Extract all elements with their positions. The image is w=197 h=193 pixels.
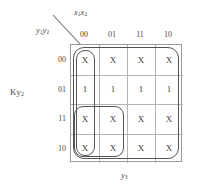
kmap-cell-r2-c0[interactable]: X bbox=[71, 104, 99, 134]
kmap-cell-r0-c2[interactable]: X bbox=[127, 45, 155, 75]
kmap-cell-r3-c3[interactable]: X bbox=[155, 134, 183, 164]
kmap-cell-r1-c0[interactable]: 1 bbox=[71, 75, 99, 105]
column-variable-label: x1x2 bbox=[74, 8, 87, 18]
column-header-3: 10 bbox=[154, 30, 182, 39]
kmap-cell-r3-c2[interactable]: X bbox=[127, 134, 155, 164]
kmap-cell-r2-c1[interactable]: X bbox=[99, 104, 127, 134]
kmap-cell-r0-c1[interactable]: X bbox=[99, 45, 127, 75]
column-header-0: 00 bbox=[70, 30, 98, 39]
map-function-label: Ky2 bbox=[10, 88, 24, 98]
column-header-1: 01 bbox=[98, 30, 126, 39]
row-header-0: 00 bbox=[48, 55, 66, 64]
kmap-cell-r2-c3[interactable]: X bbox=[155, 104, 183, 134]
column-header-2: 11 bbox=[126, 30, 154, 39]
row-header-3: 10 bbox=[48, 144, 66, 153]
kmap-cell-r1-c2[interactable]: 1 bbox=[127, 75, 155, 105]
row-header-1: 01 bbox=[48, 85, 66, 94]
kmap-grid: X X X X 1 1 1 1 X X X X X X X X bbox=[70, 44, 182, 162]
kmap-cell-r3-c0[interactable]: X bbox=[71, 134, 99, 164]
kmap-cell-r1-c3[interactable]: 1 bbox=[155, 75, 183, 105]
kmap-cell-r0-c0[interactable]: X bbox=[71, 45, 99, 75]
kmap-cell-r2-c2[interactable]: X bbox=[127, 104, 155, 134]
kmap-cell-r0-c3[interactable]: X bbox=[155, 45, 183, 75]
karnaugh-map-figure: x1x2 y1y2 Ky2 y3 00 01 11 10 00 01 11 10… bbox=[0, 0, 197, 193]
kmap-cell-r1-c1[interactable]: 1 bbox=[99, 75, 127, 105]
row-variable-label: y1y2 bbox=[36, 26, 49, 36]
row-header-2: 11 bbox=[48, 114, 66, 123]
kmap-cell-r3-c1[interactable]: X bbox=[99, 134, 127, 164]
bottom-axis-label: y3 bbox=[121, 171, 128, 181]
